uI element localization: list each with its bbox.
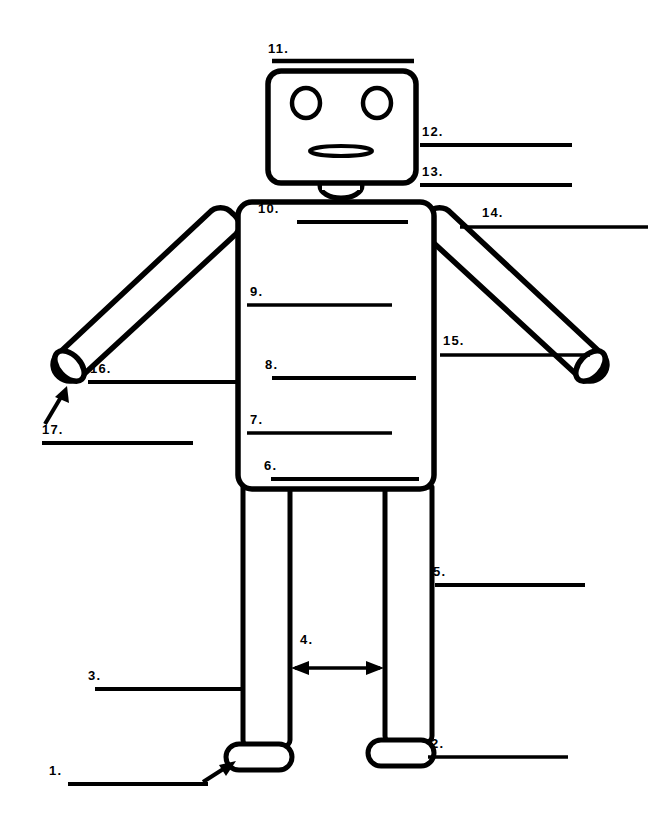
right-foot <box>368 740 434 766</box>
mouth <box>310 146 372 156</box>
label-number-15[interactable]: 15. <box>443 334 465 347</box>
torso <box>238 202 434 489</box>
label-arrow-17 <box>45 386 69 424</box>
label-number-14[interactable]: 14. <box>482 206 504 219</box>
left-foot <box>226 744 292 770</box>
left-leg <box>243 487 290 746</box>
label-number-1[interactable]: 1. <box>49 764 62 777</box>
label-number-17[interactable]: 17. <box>42 423 64 436</box>
label-number-5[interactable]: 5. <box>433 565 446 578</box>
label-number-12[interactable]: 12. <box>422 125 444 138</box>
head <box>268 71 416 183</box>
label-number-4[interactable]: 4. <box>300 633 313 646</box>
label-number-16[interactable]: 16. <box>90 362 112 375</box>
label-number-7[interactable]: 7. <box>250 413 263 426</box>
label-arrow-4 <box>291 661 384 675</box>
label-number-2[interactable]: 2. <box>431 737 444 750</box>
label-number-11[interactable]: 11. <box>268 42 289 55</box>
label-arrow-1 <box>203 761 236 782</box>
label-number-8[interactable]: 8. <box>265 358 278 371</box>
left-eye <box>292 88 320 118</box>
label-number-3[interactable]: 3. <box>88 669 101 682</box>
label-number-6[interactable]: 6. <box>264 459 277 472</box>
robot-figure-diagram <box>0 0 660 828</box>
label-number-9[interactable]: 9. <box>250 285 263 298</box>
right-leg <box>385 487 432 742</box>
worksheet-page: 11. 12. 13. 14. 15. 16. 17. 10. 9. 8. 7.… <box>0 0 660 828</box>
left-arm <box>49 208 239 387</box>
right-eye <box>363 88 391 118</box>
label-number-13[interactable]: 13. <box>422 165 444 178</box>
right-arm <box>421 208 611 387</box>
label-number-10[interactable]: 10. <box>258 202 280 215</box>
